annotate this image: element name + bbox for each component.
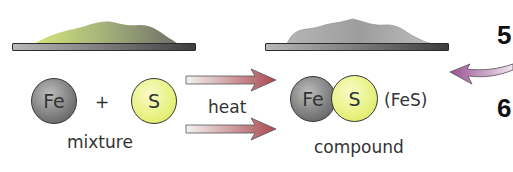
compound-powder-pile xyxy=(285,16,435,46)
mixture-tray xyxy=(12,43,196,51)
iron-atom: Fe xyxy=(31,78,77,124)
iron-symbol: Fe xyxy=(43,90,65,112)
sulfur-atom: S xyxy=(131,78,177,124)
compound-formula: (FeS) xyxy=(384,90,427,110)
step-number-6: 6 xyxy=(497,93,511,124)
sulfur-symbol: S xyxy=(148,90,160,112)
mixture-label: mixture xyxy=(67,132,133,152)
compound-sulfur-atom: S xyxy=(331,75,378,122)
compound-tray xyxy=(265,43,449,51)
curved-return-arrow xyxy=(448,60,513,90)
heat-arrow-bottom xyxy=(185,117,277,141)
compound-iron-atom: Fe xyxy=(290,76,336,122)
heat-arrow-top xyxy=(185,68,277,92)
step-number-5: 5 xyxy=(497,20,511,51)
compound-label: compound xyxy=(314,137,404,157)
mixture-powder-pile xyxy=(30,16,180,46)
plus-sign: + xyxy=(95,92,109,112)
compound-iron-symbol: Fe xyxy=(302,88,324,110)
compound-sulfur-symbol: S xyxy=(348,88,360,110)
heat-label: heat xyxy=(208,97,246,117)
